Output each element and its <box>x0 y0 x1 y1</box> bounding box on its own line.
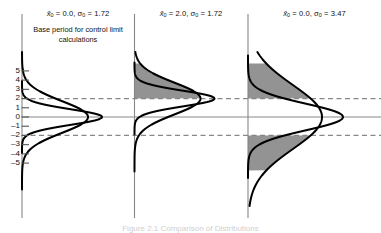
panel-3-sigma-value: 3.47 <box>331 9 346 18</box>
figure-caption: Figure 2.1 Comparison of Distributions <box>0 224 381 233</box>
axis-tick-label: 1 <box>0 104 20 112</box>
axis-tick-label: –3 <box>0 140 20 148</box>
axis-tick-label: –5 <box>0 159 20 167</box>
panel-2-comma: , <box>186 9 188 18</box>
panel-3-comma: , <box>310 9 312 18</box>
axis-tick-label: 0 <box>0 113 20 121</box>
panel-1-mean-eq: = <box>56 9 61 18</box>
axis-tick-label: 5 <box>0 67 20 75</box>
panel-3-sigma-eq: = <box>324 9 329 18</box>
panel-3-mean-eq: = <box>292 9 297 18</box>
panel-1-curve-wide <box>22 52 88 190</box>
axis-tick-label: –1 <box>0 122 20 130</box>
axis-tick-label: –4 <box>0 150 20 158</box>
panel-2-mean-value: 2.0 <box>176 9 187 18</box>
panel-2-mean-eq: = <box>169 9 174 18</box>
axis-tick-label: 3 <box>0 85 20 93</box>
axis-tick-label: –2 <box>0 131 20 139</box>
panel-3-shaded-tail-lower <box>248 135 311 170</box>
axis-lines-group <box>22 14 381 218</box>
panel-3-shaded-tail-upper <box>248 64 310 99</box>
panel-2-sigma-value: 1.72 <box>207 9 222 18</box>
panel-1-title: x̄0 = 0.0, σ0 = 1.72 <box>22 9 134 20</box>
panel-3-mean-value: 0.0 <box>299 9 310 18</box>
panel-1-sigma-sub: 0 <box>82 12 85 18</box>
panel-3-mean-sub: 0 <box>287 12 290 18</box>
figure-root: x̄0 = 0.0, σ0 = 1.72 Base period for con… <box>0 0 381 233</box>
panel-2-title: x̄0 = 2.0, σ0 = 1.72 <box>135 9 248 20</box>
axis-tick-label: 4 <box>0 76 20 84</box>
panel-1-sigma-eq: = <box>88 9 93 18</box>
panel-1-mean-value: 0.0 <box>63 9 74 18</box>
panel-1-comma: , <box>73 9 75 18</box>
panel-3-sigma-sub: 0 <box>319 12 322 18</box>
panel-2-mean-sub: 0 <box>164 12 167 18</box>
panel-1-sigma-value: 1.72 <box>94 9 109 18</box>
panel-2-sigma-eq: = <box>201 9 206 18</box>
distribution-curves-group <box>22 52 343 206</box>
panel-2-sigma-sub: 0 <box>195 12 198 18</box>
panel-1-note: Base period for control limit calculatio… <box>25 25 131 44</box>
panel-3-title: x̄0 = 0.0, σ0 = 3.47 <box>248 9 381 20</box>
panel-1-mean-sub: 0 <box>51 12 54 18</box>
axis-tick-label: 2 <box>0 94 20 102</box>
